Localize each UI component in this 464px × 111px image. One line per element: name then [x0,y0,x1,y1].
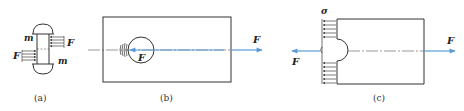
label-F-left-c: F [291,56,300,67]
top-cap [33,24,53,34]
label-sigma: σ [321,6,328,16]
distributed-load-right [50,36,64,48]
stress-arrows-bottom [323,63,336,83]
panel-c: F F σ (c) [291,6,455,103]
label-F-left: F [12,50,21,61]
label-F-inner: F [137,52,146,63]
panel-b: F F (b) [88,17,262,103]
caption-c: (c) [373,93,385,103]
stress-arrows-top [323,21,336,37]
bottom-cap [33,64,53,74]
plate-c [337,19,424,84]
caption-a: (a) [34,93,46,103]
label-F-right-b: F [252,34,261,45]
caption-b: (b) [160,93,173,103]
label-F-right-c: F [446,35,455,46]
distributed-load-left [22,50,36,62]
figure-canvas: m F F m (a) F F (b) [0,0,464,111]
label-m-top: m [24,33,34,43]
label-F-right: F [66,37,75,48]
label-m-bottom: m [58,56,68,66]
panel-a: m F F m (a) [12,24,75,103]
